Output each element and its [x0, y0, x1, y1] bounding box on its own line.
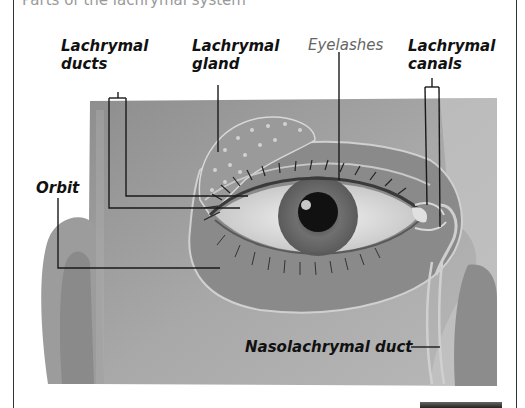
- label-lachrymal-canals: Lachrymal canals: [408, 37, 495, 73]
- label-lachrymal-gland: Lachrymal gland: [192, 37, 279, 73]
- label-orbit: Orbit: [36, 179, 79, 197]
- bottom-divider-bar: [420, 402, 502, 408]
- label-nasolachrymal-duct: Nasolachrymal duct: [245, 338, 413, 356]
- pupil: [298, 192, 338, 232]
- label-eyelashes: Eyelashes: [308, 36, 383, 54]
- label-lachrymal-ducts: Lachrymal ducts: [61, 37, 148, 73]
